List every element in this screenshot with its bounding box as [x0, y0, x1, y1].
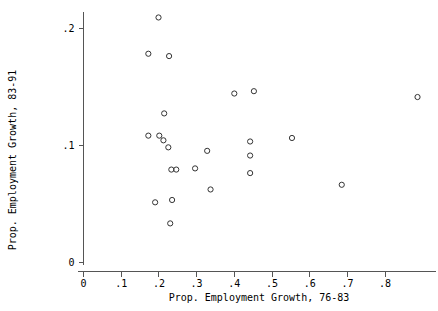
scatter-point [169, 197, 174, 202]
y-tick-label: 0 [68, 257, 74, 268]
x-tick-label: .4 [228, 278, 240, 289]
scatter-point [251, 89, 256, 94]
scatter-point [166, 53, 171, 58]
x-tick-label: .6 [304, 278, 316, 289]
x-tick-label: .5 [266, 278, 278, 289]
scatter-point [157, 133, 162, 138]
x-tick-group: 0.1.2.3.4.5.6.7.8 [80, 272, 391, 290]
scatter-point [248, 170, 253, 175]
scatter-point [156, 15, 161, 20]
x-tick-label: .1 [115, 278, 127, 289]
plot-canvas: 0.1.2 0.1.2.3.4.5.6.7.8 Prop. Employment… [0, 0, 438, 311]
scatter-point [248, 139, 253, 144]
scatter-point [166, 145, 171, 150]
scatter-point [205, 148, 210, 153]
y-tick-group: 0.1.2 [62, 23, 83, 268]
y-axis-title: Prop. Employment Growth, 83-91 [7, 70, 18, 251]
y-tick-label: .1 [62, 140, 74, 151]
y-tick-label: .2 [62, 23, 74, 34]
scatter-point [339, 182, 344, 187]
x-axis-title: Prop. Employment Growth, 76-83 [169, 292, 350, 303]
scatter-point [153, 200, 158, 205]
x-tick-label: .8 [379, 278, 391, 289]
x-tick-label: .7 [341, 278, 353, 289]
scatter-point [208, 187, 213, 192]
data-points-layer [146, 15, 420, 226]
scatter-point [192, 166, 197, 171]
scatter-point [232, 91, 237, 96]
scatter-point [146, 51, 151, 56]
scatter-point [162, 111, 167, 116]
scatter-point [146, 133, 151, 138]
scatter-point [415, 94, 420, 99]
scatter-plot-figure: 0.1.2 0.1.2.3.4.5.6.7.8 Prop. Employment… [0, 0, 438, 311]
scatter-point [168, 221, 173, 226]
x-tick-label: .3 [191, 278, 203, 289]
scatter-point [248, 153, 253, 158]
x-tick-label: 0 [80, 278, 86, 289]
scatter-point [289, 135, 294, 140]
scatter-point [161, 138, 166, 143]
x-tick-label: .2 [153, 278, 165, 289]
